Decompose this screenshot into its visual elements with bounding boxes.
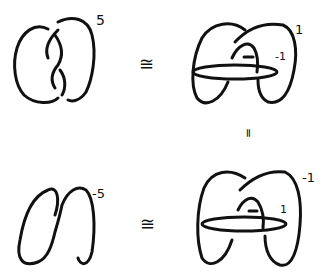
knot-bottom-right: 1 -1 (198, 170, 315, 265)
inner-framing-label-top: -1 (275, 50, 286, 63)
framing-label-bottom-left: -5 (92, 186, 105, 201)
knot-top-left-twist (47, 30, 65, 95)
congruent-symbol-top: ≅ (139, 53, 154, 74)
knot-top-left: 5 (15, 12, 105, 103)
knot-bottom-left-loop (19, 188, 94, 264)
knot-bottom-right-inner-arc (238, 198, 263, 228)
knot-top-right-left-lobe (193, 24, 245, 103)
congruent-symbol-bottom: ≅ (140, 213, 155, 234)
knot-diagram: 5 ≅ -1 1 = -5 ≅ 1 -1 (0, 0, 334, 278)
equals-symbol-vertical: = (242, 128, 256, 138)
surgery-circle-bottom (202, 217, 286, 231)
knot-bottom-left: -5 (19, 186, 105, 264)
framing-label-top-right: 1 (295, 22, 303, 37)
knot-top-right: -1 1 (193, 22, 303, 103)
knot-top-right-right-lobe (235, 24, 296, 102)
inner-framing-label-bottom: 1 (280, 203, 287, 216)
surgery-circle-top (193, 65, 277, 79)
framing-label-top-left: 5 (96, 12, 105, 28)
framing-label-bottom-right: -1 (302, 170, 315, 185)
